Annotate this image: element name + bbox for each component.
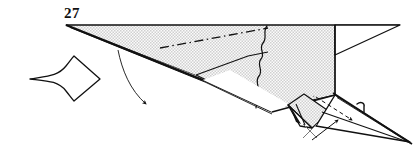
origami-step-figure: 27 [0,0,417,156]
step-number-label: 27 [64,5,80,21]
origami-diagram: 27 [0,0,417,156]
